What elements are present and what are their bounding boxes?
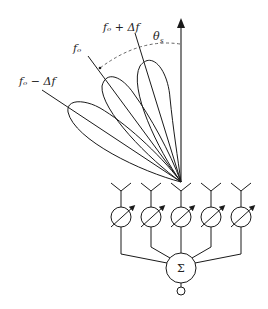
phase-shifters bbox=[111, 207, 253, 227]
phase-shifter-1 bbox=[111, 207, 133, 227]
antenna-element-3 bbox=[171, 183, 191, 207]
output-port bbox=[177, 283, 185, 295]
svg-text:s: s bbox=[160, 37, 164, 45]
summing-junction: Σ bbox=[166, 253, 196, 283]
beam-steering-diagram: fₒ + Δf fₒ fₒ − Δf θ s bbox=[0, 0, 268, 309]
boresight-axis bbox=[177, 18, 185, 182]
beam-line-center bbox=[88, 56, 181, 182]
lobe-low-frequency bbox=[68, 102, 181, 182]
antenna-element-1 bbox=[111, 183, 131, 207]
lobe-high-frequency bbox=[137, 60, 181, 182]
label-beam-center: fₒ bbox=[72, 42, 81, 55]
phase-shifter-4 bbox=[201, 207, 223, 227]
sigma-symbol: Σ bbox=[177, 262, 185, 275]
scan-angle-arc bbox=[100, 43, 180, 68]
beam-direction-lines bbox=[42, 33, 181, 182]
label-scan-angle: θ s bbox=[153, 30, 164, 45]
antenna-array bbox=[111, 183, 251, 207]
antenna-element-2 bbox=[141, 183, 161, 207]
label-beam-high: fₒ + Δf bbox=[102, 21, 141, 34]
antenna-element-5 bbox=[231, 183, 251, 207]
antenna-element-4 bbox=[201, 183, 221, 207]
phase-shifter-2 bbox=[141, 207, 163, 227]
beam-lobes bbox=[68, 60, 181, 182]
phase-shifter-3 bbox=[171, 207, 193, 227]
phase-shifter-5 bbox=[231, 207, 253, 227]
arrow-up-icon bbox=[177, 18, 185, 28]
svg-text:θ: θ bbox=[153, 30, 160, 43]
beam-line-high bbox=[135, 33, 181, 182]
arc-end-dot bbox=[99, 67, 102, 70]
label-beam-low: fₒ − Δf bbox=[18, 75, 57, 88]
